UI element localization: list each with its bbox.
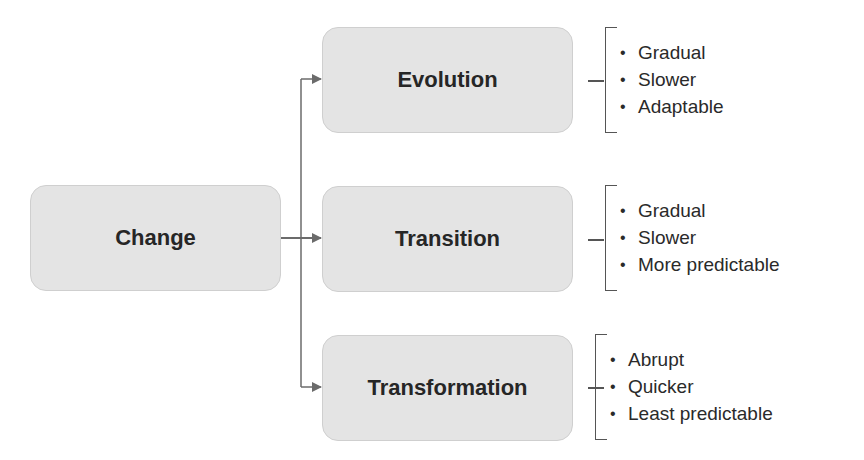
node-change-label: Change [115, 225, 196, 251]
trait-item: Least predictable [608, 400, 773, 427]
trait-item: More predictable [618, 251, 780, 278]
trait-item: Gradual [618, 39, 724, 66]
bracket-transformation [595, 334, 607, 440]
node-transition: Transition [322, 186, 573, 292]
traits-evolution: Gradual Slower Adaptable [618, 39, 724, 120]
bracket-evolution [605, 27, 617, 133]
node-transition-label: Transition [395, 226, 500, 252]
bracket-tick-transition [588, 239, 604, 241]
node-evolution: Evolution [322, 27, 573, 133]
node-transformation: Transformation [322, 335, 573, 441]
trait-item: Quicker [608, 373, 773, 400]
trait-item: Abrupt [608, 346, 773, 373]
trait-item: Slower [618, 66, 724, 93]
node-transformation-label: Transformation [367, 375, 527, 401]
node-evolution-label: Evolution [397, 67, 497, 93]
trait-item: Slower [618, 224, 780, 251]
trait-item: Gradual [618, 197, 780, 224]
bracket-tick-evolution [588, 80, 604, 82]
trait-item: Adaptable [618, 93, 724, 120]
traits-transition: Gradual Slower More predictable [618, 197, 780, 278]
traits-transformation: Abrupt Quicker Least predictable [608, 346, 773, 427]
bracket-transition [605, 185, 617, 291]
node-change: Change [30, 185, 281, 291]
